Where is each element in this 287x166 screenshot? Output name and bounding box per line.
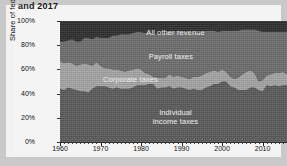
chart-screenshot: and 2017 Share of federal revenue 0%20%4… bbox=[0, 0, 287, 166]
x-tick-mark-minor bbox=[137, 142, 138, 144]
x-tick-mark-minor bbox=[271, 142, 272, 144]
x-tick-mark-minor bbox=[165, 142, 166, 144]
x-tick-mark-minor bbox=[153, 142, 154, 144]
x-tick-mark-minor bbox=[246, 142, 247, 144]
x-tick-mark-minor bbox=[259, 142, 260, 144]
series-label: Payroll taxes bbox=[149, 52, 193, 61]
series-label: Individualincome taxes bbox=[153, 108, 198, 126]
plot-area: All other revenuePayroll taxesCorporate … bbox=[60, 21, 287, 142]
x-tick-label: 1970 bbox=[93, 145, 109, 153]
x-tick-mark-minor bbox=[210, 142, 211, 144]
x-tick-mark-minor bbox=[178, 142, 179, 144]
figure-card: and 2017 Share of federal revenue 0%20%4… bbox=[6, 5, 281, 157]
x-tick-mark-minor bbox=[206, 142, 207, 144]
x-tick-mark-minor bbox=[238, 142, 239, 144]
x-tick-mark-minor bbox=[190, 142, 191, 144]
y-tick-label: 100% bbox=[17, 17, 35, 24]
chart-title: and 2017 bbox=[18, 1, 58, 11]
y-tick-label: 60% bbox=[21, 65, 35, 72]
x-tick-mark-minor bbox=[218, 142, 219, 144]
x-tick-mark-minor bbox=[194, 142, 195, 144]
x-tick-label: 1990 bbox=[174, 145, 190, 153]
x-tick-mark-minor bbox=[133, 142, 134, 144]
x-tick-mark-minor bbox=[230, 142, 231, 144]
y-axis-title: Share of federal revenue bbox=[8, 0, 17, 41]
x-tick-mark-minor bbox=[279, 142, 280, 144]
x-tick-mark-minor bbox=[242, 142, 243, 144]
x-tick-mark-minor bbox=[105, 142, 106, 144]
x-tick-label: 1980 bbox=[133, 145, 149, 153]
x-tick-mark-minor bbox=[283, 142, 284, 144]
x-tick-mark-minor bbox=[275, 142, 276, 144]
x-tick-mark-minor bbox=[113, 142, 114, 144]
x-tick-label: 1960 bbox=[52, 145, 68, 153]
series-label: All other revenue bbox=[146, 28, 204, 37]
x-tick-mark-minor bbox=[226, 142, 227, 144]
y-tick-label: 0% bbox=[25, 138, 35, 145]
x-tick-mark-minor bbox=[68, 142, 69, 144]
y-tick-label: 40% bbox=[21, 90, 35, 97]
x-tick-mark-minor bbox=[92, 142, 93, 144]
x-tick-mark-minor bbox=[234, 142, 235, 144]
x-tick-mark-minor bbox=[117, 142, 118, 144]
y-tick-label: 20% bbox=[21, 114, 35, 121]
x-tick-label: 2010 bbox=[255, 145, 271, 153]
x-tick-mark-minor bbox=[173, 142, 174, 144]
x-tick-mark-minor bbox=[198, 142, 199, 144]
x-tick-mark-minor bbox=[125, 142, 126, 144]
x-tick-mark-minor bbox=[80, 142, 81, 144]
x-tick-mark-minor bbox=[202, 142, 203, 144]
x-tick-mark-minor bbox=[64, 142, 65, 144]
x-tick-label: 2000 bbox=[214, 145, 230, 153]
x-tick-mark-minor bbox=[129, 142, 130, 144]
figure-card-inner: and 2017 Share of federal revenue 0%20%4… bbox=[14, 5, 281, 155]
x-tick-mark-minor bbox=[88, 142, 89, 144]
x-tick-mark-minor bbox=[149, 142, 150, 144]
x-tick-mark-minor bbox=[255, 142, 256, 144]
x-tick-mark-minor bbox=[169, 142, 170, 144]
x-tick-mark-minor bbox=[76, 142, 77, 144]
x-tick-mark-minor bbox=[121, 142, 122, 144]
x-tick-mark-minor bbox=[145, 142, 146, 144]
x-tick-mark-minor bbox=[72, 142, 73, 144]
x-tick-mark-minor bbox=[267, 142, 268, 144]
x-tick-mark-minor bbox=[109, 142, 110, 144]
x-tick-mark-minor bbox=[161, 142, 162, 144]
x-tick-mark-minor bbox=[250, 142, 251, 144]
x-tick-mark-minor bbox=[157, 142, 158, 144]
x-tick-mark-minor bbox=[96, 142, 97, 144]
series-label: Corporate taxes bbox=[103, 75, 158, 84]
x-tick-mark-minor bbox=[84, 142, 85, 144]
y-tick-label: 80% bbox=[21, 41, 35, 48]
x-tick-mark-minor bbox=[214, 142, 215, 144]
x-tick-mark-minor bbox=[186, 142, 187, 144]
